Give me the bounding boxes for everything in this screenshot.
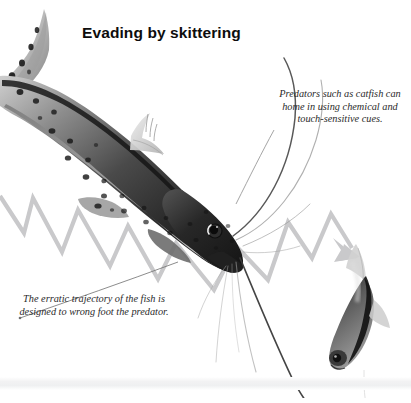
bottom-edge-strip <box>0 398 411 403</box>
page-title: Evading by skittering <box>82 24 241 42</box>
catfish-pectoral-fin <box>78 197 129 218</box>
catfish-predator <box>0 9 323 403</box>
illustration-svg <box>0 0 411 403</box>
catfish-eye <box>207 223 222 238</box>
catfish-dorsal-fin <box>130 113 164 155</box>
bottom-shadow-band <box>0 377 411 390</box>
predator-caption: Predators such as catfish can home in us… <box>276 88 404 126</box>
prey-fish <box>329 244 390 370</box>
prey-fish-eye <box>333 354 341 362</box>
leader-line-predator <box>236 130 274 204</box>
figure-page: Evading by skittering Predators such as … <box>0 0 411 403</box>
trajectory-caption: The erratic trajectory of the fish is de… <box>18 293 170 318</box>
